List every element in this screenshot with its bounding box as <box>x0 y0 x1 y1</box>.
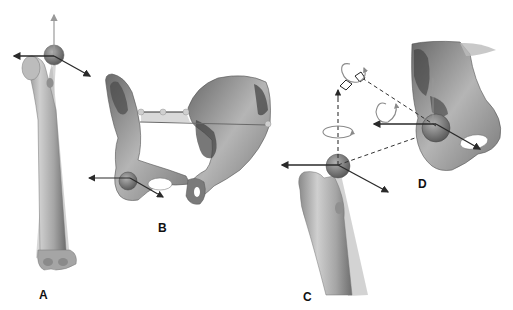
panel-label-d: D <box>418 178 427 190</box>
anatomy-figure <box>0 0 513 310</box>
rotation-triad <box>338 64 396 123</box>
panel-label-b: B <box>158 222 167 234</box>
panel-label-a: A <box>39 289 48 301</box>
panel-d-hemipelvis <box>362 41 501 170</box>
axis-anterior <box>54 56 90 76</box>
panel-b-pelvis <box>89 74 271 204</box>
panel-label-c: C <box>303 291 312 303</box>
panel-c-proximal-femur <box>282 90 432 296</box>
rotation-icon <box>376 103 396 122</box>
panel-a-femur <box>14 15 90 270</box>
